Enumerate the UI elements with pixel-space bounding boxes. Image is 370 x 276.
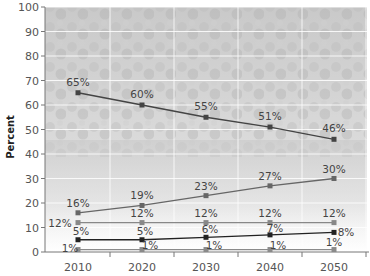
x-tick-label: 2020 [128, 261, 156, 274]
data-label: 16% [66, 197, 89, 209]
data-label: 5% [73, 225, 90, 237]
data-label: 5% [137, 225, 154, 237]
data-point-marker [332, 137, 337, 142]
x-tick-label: 2050 [320, 261, 348, 274]
y-tick-label: 50 [25, 124, 39, 137]
data-point-marker [332, 176, 337, 181]
data-point-marker [76, 90, 81, 95]
data-point-marker [332, 247, 337, 252]
data-label: 30% [322, 163, 345, 175]
y-tick-label: 20 [25, 197, 39, 210]
data-point-marker [76, 210, 81, 215]
data-label: 12% [194, 207, 217, 219]
data-label: 23% [194, 180, 217, 192]
y-tick-label: 60 [25, 99, 39, 112]
data-label: 27% [258, 170, 281, 182]
data-point-marker [332, 230, 337, 235]
data-label: 1% [142, 239, 159, 251]
data-label: 46% [322, 122, 345, 134]
y-tick-label: 30 [25, 173, 39, 186]
data-label: 19% [130, 189, 153, 201]
y-tick-label: 0 [32, 246, 39, 259]
data-point-marker [268, 183, 273, 188]
y-tick-label: 70 [25, 75, 39, 88]
y-tick-label: 80 [25, 50, 39, 63]
x-tick-label: 2010 [64, 261, 92, 274]
data-label: 12% [48, 217, 71, 229]
data-label: 1% [206, 239, 223, 251]
data-label: 6% [202, 223, 219, 235]
y-tick-label: 40 [25, 148, 39, 161]
line-chart: 0102030405060708090100201020202030204020… [0, 0, 370, 276]
data-label: 12% [322, 207, 345, 219]
data-label: 1% [270, 239, 287, 251]
data-point-marker [204, 115, 209, 120]
x-tick-label: 2030 [192, 261, 220, 274]
data-label: 55% [194, 100, 217, 112]
data-label: 51% [258, 110, 281, 122]
y-tick-label: 10 [25, 222, 39, 235]
data-point-marker [204, 193, 209, 198]
data-point-marker [140, 103, 145, 108]
data-label: 1% [62, 242, 79, 254]
data-label: 60% [130, 88, 153, 100]
data-point-marker [268, 125, 273, 130]
y-tick-label: 90 [25, 26, 39, 39]
y-tick-label: 100 [18, 1, 39, 14]
data-point-marker [332, 220, 337, 225]
data-label: 12% [258, 207, 281, 219]
y-axis-label: Percent [5, 115, 16, 159]
data-label: 7% [267, 222, 284, 234]
x-tick-label: 2040 [256, 261, 284, 274]
data-label: 65% [66, 76, 89, 88]
data-label: 1% [326, 236, 343, 248]
data-label: 12% [130, 207, 153, 219]
